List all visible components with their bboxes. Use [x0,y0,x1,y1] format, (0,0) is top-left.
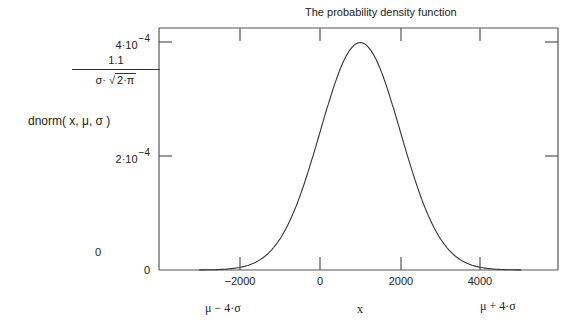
plot-area [0,0,584,330]
density-curve [199,43,521,270]
